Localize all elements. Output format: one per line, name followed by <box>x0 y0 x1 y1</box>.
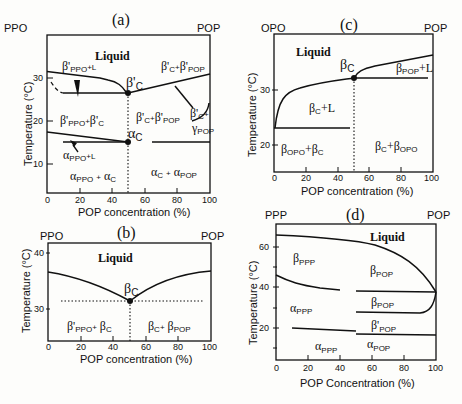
panel-c-y-ticks: 30 20 <box>260 85 278 150</box>
panel-d-x-label: POP Concentration (%) <box>300 377 415 389</box>
panel-a-region-aPPO-L: αPPO+L <box>63 148 96 163</box>
svg-text:40: 40 <box>335 363 345 373</box>
svg-text:60: 60 <box>367 363 377 373</box>
panel-a-liquidus-left <box>47 72 128 94</box>
panel-b-title: (b) <box>117 224 136 242</box>
panel-c-y-label: Temperature (°C) <box>246 73 258 157</box>
panel-a: (a) PPO POP 30 20 10 0 20 40 60 80 100 P… <box>4 11 220 218</box>
svg-text:40: 40 <box>107 195 117 205</box>
panel-a-gammaPOP-label: γPOP <box>191 121 214 136</box>
svg-text:0: 0 <box>272 173 277 183</box>
svg-text:20: 20 <box>260 140 270 150</box>
svg-text:40: 40 <box>108 342 118 352</box>
panel-b-region-bC-bPOP: βC+ βPOP <box>148 319 191 334</box>
panel-b-liquid-label: Liquid <box>98 251 133 265</box>
svg-text:0: 0 <box>46 342 51 352</box>
panel-a-beta-prime-C-label: β'C <box>126 75 143 92</box>
panel-b-x-ticks: 0 20 40 60 80 100 <box>46 336 217 352</box>
panel-c-beta-C-point <box>351 75 357 81</box>
panel-a-left-component: PPO <box>4 22 28 34</box>
svg-text:20: 20 <box>301 173 311 183</box>
panel-d-region-bPOP-mid: βPOP <box>371 295 394 310</box>
panel-a-region-aC-aPOP: αC + αPOP <box>151 165 197 180</box>
panel-c-beta-C-label: βC <box>340 57 354 74</box>
panel-d-beta-alpha-PPP-line <box>276 275 340 290</box>
panel-b-region-bpPPO-bC: β'PPO+ βC <box>67 319 112 334</box>
panel-a-arrow-down-icon <box>74 80 80 97</box>
panel-a-region-bpC-bpPOP-mid: β'C+β'POP <box>136 110 180 125</box>
panel-b-x-label: POP concentration (%) <box>80 353 192 365</box>
panel-a-x-label: POP concentration (%) <box>78 206 190 218</box>
panel-b: (b) PPO POP 40 30 0 20 40 60 80 100 POP … <box>20 224 224 365</box>
panel-d: (d) PPP POP 60 40 20 0 20 40 60 80 100 <box>247 206 450 389</box>
svg-text:20: 20 <box>33 116 43 126</box>
panel-a-region-bpPPO-bpC: β'PPO+β'C <box>60 113 104 128</box>
svg-text:100: 100 <box>428 363 443 373</box>
panel-c-x-label: POP concentration (%) <box>301 185 413 197</box>
panel-b-left-component: PPO <box>40 230 64 242</box>
panel-a-region-bpC-gammaPOP: β'C+ <box>190 106 209 121</box>
panel-c-left-component: OPO <box>261 22 286 34</box>
panel-a-liquid-label: Liquid <box>95 49 130 63</box>
panel-b-y-label: Temperature (°C) <box>20 249 32 333</box>
svg-text:40: 40 <box>259 282 269 292</box>
panel-a-beta-prime-C-point <box>125 90 131 96</box>
svg-text:100: 100 <box>202 342 217 352</box>
panel-a-y-ticks: 30 20 10 <box>33 73 53 169</box>
panel-d-region-aPPP-lower: αPPP <box>315 339 337 355</box>
panel-c-liquid-label: Liquid <box>296 45 331 59</box>
svg-text:40: 40 <box>34 248 44 258</box>
svg-text:60: 60 <box>140 195 150 205</box>
panel-d-y-label: Temperature (°C) <box>247 261 259 345</box>
svg-text:20: 20 <box>75 195 85 205</box>
svg-text:30: 30 <box>34 304 44 314</box>
panel-d-region-aPPP: αPPP <box>290 301 312 316</box>
panel-b-beta-C-label: βC <box>124 281 138 298</box>
panel-a-title: (a) <box>112 11 130 29</box>
panel-d-alpha-POP-line <box>356 334 436 335</box>
panel-d-beta-POP-upper <box>356 291 436 292</box>
svg-text:20: 20 <box>303 363 313 373</box>
panel-c-region-bPOP-L: βPOP+L <box>396 61 433 76</box>
panel-a-dashed-curve <box>51 82 63 93</box>
panel-c-title: (c) <box>340 16 358 34</box>
svg-text:40: 40 <box>333 173 343 183</box>
panel-b-right-component: POP <box>201 230 224 242</box>
panel-d-beta-POP-lower <box>356 292 436 313</box>
panel-d-region-aPOP: αPOP <box>367 337 390 353</box>
panel-d-title: (d) <box>346 206 365 224</box>
panel-a-region-bpPPO-L: β'PPO+L <box>62 59 97 74</box>
panel-d-region-bpPOP: β'POP <box>371 318 396 334</box>
panel-a-y-label: Temperature (°C) <box>22 82 34 166</box>
svg-text:80: 80 <box>172 195 182 205</box>
svg-text:30: 30 <box>260 85 270 95</box>
panel-a-tie-line <box>175 86 193 108</box>
panel-b-liquidus-right <box>130 271 211 301</box>
svg-text:0: 0 <box>45 195 50 205</box>
svg-text:60: 60 <box>364 173 374 183</box>
phase-diagrams-figure: (a) PPO POP 30 20 10 0 20 40 60 80 100 P… <box>0 0 462 404</box>
svg-text:20: 20 <box>259 323 269 333</box>
panel-c-region-bOPO-bC: βOPO+βC <box>281 142 324 157</box>
panel-b-beta-C-point <box>127 298 133 304</box>
panel-a-alpha-C-label: αC <box>128 126 143 143</box>
panel-d-right-component: POP <box>427 209 450 221</box>
panel-d-x-ticks: 0 20 40 60 80 100 <box>274 355 443 373</box>
panel-c-region-bC-L: βC+L <box>309 101 335 116</box>
panel-a-region-aPPO-aC: αPPO + αC <box>70 169 116 184</box>
svg-text:60: 60 <box>141 342 151 352</box>
svg-text:0: 0 <box>274 363 279 373</box>
panel-a-x-ticks: 0 20 40 60 80 100 <box>45 188 217 205</box>
panel-c-right-component: POP <box>424 22 447 34</box>
svg-text:100: 100 <box>424 173 439 183</box>
panel-a-region-bpC-bpPOP-top: β'C+β'POP <box>161 59 205 74</box>
svg-text:10: 10 <box>33 159 43 169</box>
panel-c-region-bC-bOPO: βC+βOPO <box>375 139 418 154</box>
panel-b-liquidus-left <box>48 272 130 301</box>
panel-a-alpha-line-sloped <box>47 132 128 142</box>
panel-d-liquid-label: Liquid <box>370 230 405 244</box>
svg-text:30: 30 <box>33 73 43 83</box>
panel-d-left-component: PPP <box>265 209 287 221</box>
panel-d-alpha-PPP-lower <box>292 328 356 331</box>
panel-d-region-bPOP-upper: βPOP <box>370 263 393 279</box>
